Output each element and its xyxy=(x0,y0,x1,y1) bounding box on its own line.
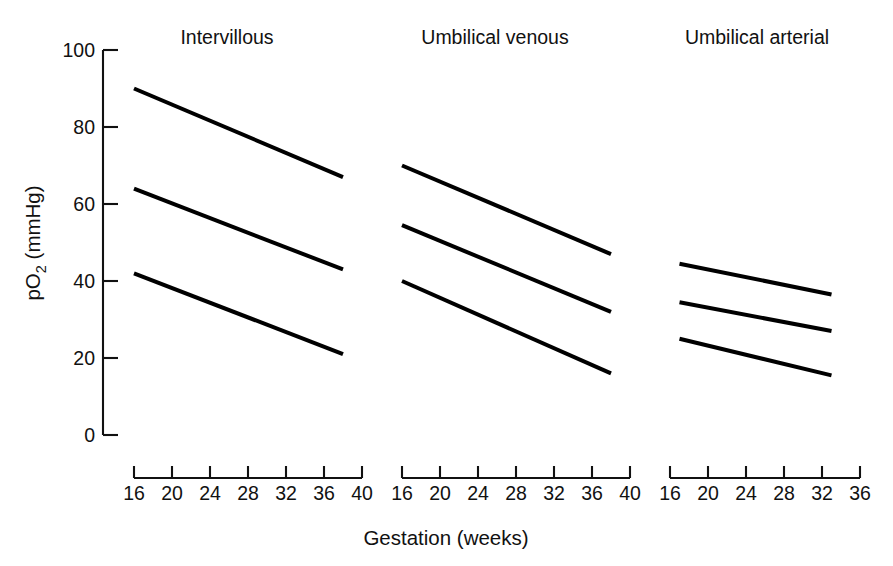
panel-title-1: Umbilical venous xyxy=(421,26,569,48)
y-axis: 020406080100 pO2 (mmHg) xyxy=(21,39,118,446)
chart-canvas: 020406080100 pO2 (mmHg) Intervillous1620… xyxy=(0,0,893,566)
y-axis-title-subscript: 2 xyxy=(33,265,49,273)
x-tick-label-p2-16: 16 xyxy=(659,482,681,504)
x-tick-label-p1-28: 28 xyxy=(505,482,527,504)
y-axis-tick-labels: 020406080100 xyxy=(62,39,95,446)
x-tick-label-p1-32: 32 xyxy=(543,482,565,504)
x-tick-label-p1-36: 36 xyxy=(581,482,603,504)
data-line-mean xyxy=(402,225,611,312)
x-tick-label-p0-40: 40 xyxy=(351,482,373,504)
panel-title-2: Umbilical arterial xyxy=(685,26,829,48)
y-tick-label-100: 100 xyxy=(62,39,95,61)
data-line-upper-limit xyxy=(402,166,611,255)
y-tick-label-0: 0 xyxy=(84,424,95,446)
data-line-lower-limit xyxy=(134,273,343,354)
y-axis-title: pO2 (mmHg) xyxy=(21,185,49,300)
x-tick-label-p0-32: 32 xyxy=(275,482,297,504)
y-axis-ticks xyxy=(103,50,118,435)
data-line-lower-limit xyxy=(402,281,611,373)
panel-group: Intervillous16202428323640Umbilical veno… xyxy=(123,26,871,504)
svg-text:pO2 (mmHg): pO2 (mmHg) xyxy=(21,185,49,300)
panel-title-0: Intervillous xyxy=(180,26,273,48)
panel-intervillous: Intervillous16202428323640 xyxy=(123,26,373,504)
x-tick-label-p2-32: 32 xyxy=(811,482,833,504)
y-tick-label-80: 80 xyxy=(73,116,95,138)
x-tick-label-p2-24: 24 xyxy=(735,482,757,504)
x-tick-label-p0-36: 36 xyxy=(313,482,335,504)
x-tick-label-p1-16: 16 xyxy=(391,482,413,504)
x-tick-label-p2-36: 36 xyxy=(849,482,871,504)
x-tick-label-p1-20: 20 xyxy=(429,482,451,504)
x-tick-label-p0-24: 24 xyxy=(199,482,221,504)
panel-umbilical-venous: Umbilical venous16202428323640 xyxy=(391,26,641,504)
data-line-upper-limit xyxy=(134,89,343,178)
x-tick-label-p0-28: 28 xyxy=(237,482,259,504)
data-line-mean xyxy=(134,189,343,270)
chart-figure: 020406080100 pO2 (mmHg) Intervillous1620… xyxy=(0,0,893,566)
y-tick-label-20: 20 xyxy=(73,347,95,369)
x-tick-label-p1-24: 24 xyxy=(467,482,489,504)
x-tick-label-p2-20: 20 xyxy=(697,482,719,504)
data-line-lower-limit xyxy=(680,339,832,376)
x-tick-label-p2-28: 28 xyxy=(773,482,795,504)
x-tick-label-p0-16: 16 xyxy=(123,482,145,504)
x-axis-title: Gestation (weeks) xyxy=(363,526,528,549)
data-line-mean xyxy=(680,302,832,331)
y-axis-title-unit: (mmHg) xyxy=(21,185,44,265)
x-tick-label-p0-20: 20 xyxy=(161,482,183,504)
y-axis-title-main: pO xyxy=(21,273,44,300)
y-tick-label-40: 40 xyxy=(73,270,95,292)
y-tick-label-60: 60 xyxy=(73,193,95,215)
panel-umbilical-arterial: Umbilical arterial162024283236 xyxy=(659,26,871,504)
x-tick-label-p1-40: 40 xyxy=(619,482,641,504)
data-line-upper-limit xyxy=(680,264,832,295)
